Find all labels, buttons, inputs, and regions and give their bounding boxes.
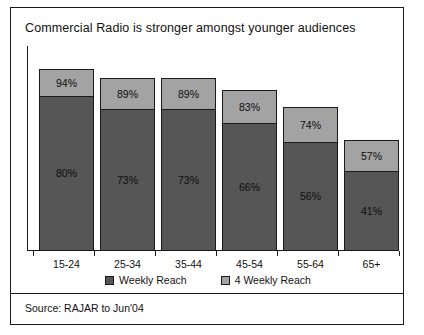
bar-segment-4-weekly-reach[interactable]: 89% bbox=[161, 78, 216, 110]
bar-group[interactable]: 57%41% bbox=[344, 140, 399, 250]
axis-tick bbox=[94, 251, 95, 256]
bar-group[interactable]: 94%80% bbox=[39, 69, 94, 250]
bar-segment-weekly-reach[interactable]: 66% bbox=[222, 123, 277, 251]
dark-swatch-icon bbox=[105, 276, 114, 285]
bar-value-label: 66% bbox=[223, 181, 276, 193]
source-divider bbox=[11, 293, 403, 294]
light-swatch-icon bbox=[221, 276, 230, 285]
bar-value-label: 73% bbox=[101, 174, 154, 186]
bar-segment-weekly-reach[interactable]: 80% bbox=[39, 96, 94, 251]
bar-value-label: 73% bbox=[162, 174, 215, 186]
bar-value-label: 80% bbox=[40, 167, 93, 179]
legend-item-4-weekly-reach[interactable]: 4 Weekly Reach bbox=[221, 274, 311, 286]
x-axis-label: 55-64 bbox=[283, 258, 338, 270]
bar-segment-weekly-reach[interactable]: 56% bbox=[283, 142, 338, 251]
axis-tick bbox=[155, 251, 156, 256]
bar-segment-4-weekly-reach[interactable]: 74% bbox=[283, 107, 338, 143]
chart-plot-area: 94%80%89%73%89%73%83%66%74%56%57%41% 15-… bbox=[18, 46, 398, 264]
bar-segment-4-weekly-reach[interactable]: 89% bbox=[100, 78, 155, 110]
page-title: Commercial Radio is stronger amongst you… bbox=[25, 21, 356, 35]
bar-segment-4-weekly-reach[interactable]: 57% bbox=[344, 140, 399, 172]
bar-segment-weekly-reach[interactable]: 73% bbox=[161, 109, 216, 251]
bar-value-label: 56% bbox=[284, 190, 337, 202]
bar-segment-weekly-reach[interactable]: 41% bbox=[344, 171, 399, 251]
chart-legend: Weekly Reach 4 Weekly Reach bbox=[11, 274, 405, 286]
legend-label: Weekly Reach bbox=[119, 274, 187, 286]
bar-value-label: 83% bbox=[223, 101, 276, 113]
bar-group[interactable]: 89%73% bbox=[161, 78, 216, 250]
y-axis-line bbox=[27, 46, 28, 250]
axis-tick bbox=[216, 251, 217, 256]
x-axis-label: 35-44 bbox=[161, 258, 216, 270]
bar-value-label: 94% bbox=[40, 77, 93, 89]
legend-label: 4 Weekly Reach bbox=[235, 274, 311, 286]
axis-tick bbox=[399, 251, 400, 256]
source-note: Source: RAJAR to Jun'04 bbox=[25, 302, 144, 314]
bar-group[interactable]: 83%66% bbox=[222, 90, 277, 250]
legend-item-weekly-reach[interactable]: Weekly Reach bbox=[105, 274, 187, 286]
x-axis-label: 65+ bbox=[344, 258, 399, 270]
axis-tick bbox=[33, 251, 34, 256]
bar-group[interactable]: 74%56% bbox=[283, 107, 338, 250]
bar-group[interactable]: 89%73% bbox=[100, 78, 155, 250]
bar-segment-weekly-reach[interactable]: 73% bbox=[100, 109, 155, 251]
axis-tick bbox=[277, 251, 278, 256]
x-axis-label: 25-34 bbox=[100, 258, 155, 270]
x-axis-label: 45-54 bbox=[222, 258, 277, 270]
bar-value-label: 89% bbox=[162, 88, 215, 100]
axis-tick bbox=[338, 251, 339, 256]
slide-frame: Commercial Radio is stronger amongst you… bbox=[10, 7, 404, 325]
x-axis-label: 15-24 bbox=[39, 258, 94, 270]
bar-value-label: 74% bbox=[284, 119, 337, 131]
bar-segment-4-weekly-reach[interactable]: 83% bbox=[222, 90, 277, 124]
bar-value-label: 57% bbox=[345, 150, 398, 162]
bar-segment-4-weekly-reach[interactable]: 94% bbox=[39, 69, 94, 97]
bar-value-label: 89% bbox=[101, 88, 154, 100]
bar-value-label: 41% bbox=[345, 205, 398, 217]
